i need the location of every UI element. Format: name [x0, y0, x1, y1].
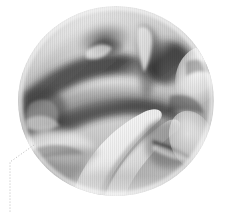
surface-plot-canvas	[0, 0, 229, 212]
surface-body	[0, 6, 229, 212]
callout-leader-line	[10, 145, 34, 212]
surface-plot-figure	[0, 0, 229, 212]
